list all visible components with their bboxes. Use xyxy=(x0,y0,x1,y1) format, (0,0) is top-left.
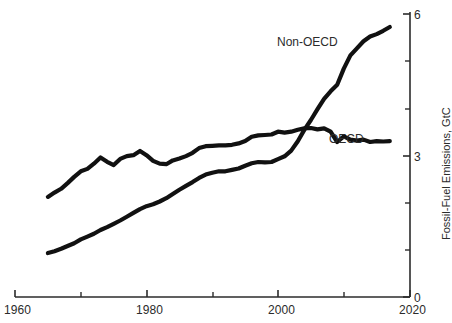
y-tick-label-3: 3 xyxy=(414,150,421,164)
series-label-non-oecd: Non-OECD xyxy=(277,35,338,49)
x-tick-label-1980: 1980 xyxy=(136,303,163,317)
y-axis-title: Fossil-Fuel Emissions, GtC xyxy=(440,107,452,240)
y-tick-label-6: 6 xyxy=(414,8,421,22)
series-label-oecd: OECD xyxy=(329,132,364,146)
x-tick-label-2020: 2020 xyxy=(399,303,426,317)
y-tick-label-0: 0 xyxy=(414,291,421,305)
y-axis-major-ticks xyxy=(403,14,410,297)
x-tick-label-2000: 2000 xyxy=(268,303,295,317)
x-tick-label-1960: 1960 xyxy=(4,303,31,317)
